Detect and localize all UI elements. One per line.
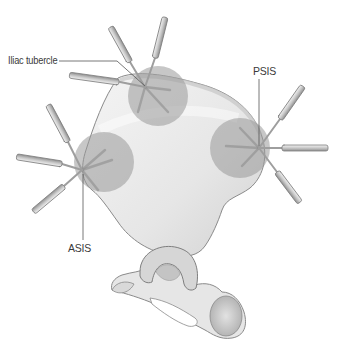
psis-label: PSIS — [253, 66, 276, 77]
lower-pelvis — [111, 246, 245, 338]
ischial-tuberosity — [210, 296, 242, 336]
iliac-tubercle-label: Iliac tubercle — [8, 55, 57, 66]
asis-label: ASIS — [68, 243, 91, 254]
pelvis-diagram: Iliac tubercle PSIS ASIS — [0, 0, 342, 346]
ilium-illustration — [0, 0, 342, 346]
